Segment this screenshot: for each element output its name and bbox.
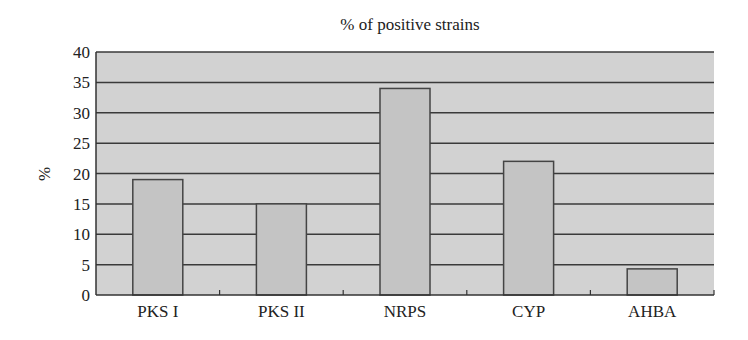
y-tick-label: 40: [73, 43, 90, 62]
x-tick-label: PKS I: [137, 302, 178, 321]
y-tick-label: 0: [82, 286, 91, 305]
y-tick-label: 15: [73, 195, 90, 214]
y-tick-label: 10: [73, 225, 90, 244]
y-axis-label: %: [35, 167, 54, 181]
x-tick-label: PKS II: [258, 302, 305, 321]
y-tick-label: 5: [82, 256, 91, 275]
bar-ahba: [627, 269, 677, 295]
y-axis-ticks: 0510152025303540: [73, 43, 90, 305]
bar-nrps: [380, 88, 430, 295]
x-tick-label: NRPS: [384, 302, 427, 321]
bar-pks-i: [133, 180, 183, 295]
x-tick-label: AHBA: [628, 302, 677, 321]
y-tick-label: 25: [73, 134, 90, 153]
bar-chart: % of positive strains % 0510152025303540…: [0, 0, 748, 340]
x-axis-ticks: PKS IPKS IINRPSCYPAHBA: [137, 302, 677, 321]
y-tick-label: 30: [73, 104, 90, 123]
y-tick-label: 35: [73, 73, 90, 92]
y-tick-label: 20: [73, 165, 90, 184]
bar-cyp: [504, 161, 554, 295]
chart-title: % of positive strains: [340, 15, 479, 34]
bar-pks-ii: [256, 204, 306, 295]
x-tick-label: CYP: [512, 302, 545, 321]
